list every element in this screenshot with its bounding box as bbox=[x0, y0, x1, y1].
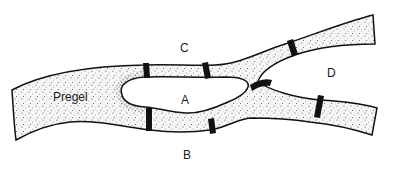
river-label-pregel: Pregel bbox=[53, 90, 88, 104]
bridge-1-a-c-west bbox=[143, 63, 150, 78]
land-label-c: C bbox=[180, 41, 189, 55]
konigsberg-bridges-diagram: Pregel C A B D bbox=[0, 0, 393, 172]
land-label-b: B bbox=[183, 148, 191, 162]
land-label-a: A bbox=[181, 93, 189, 107]
bridge-3-a-b-west bbox=[146, 108, 152, 131]
land-label-d: D bbox=[327, 66, 336, 80]
